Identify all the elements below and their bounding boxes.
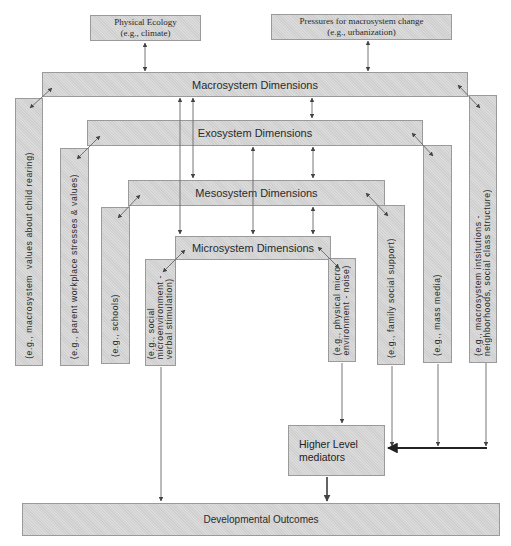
mesosystem-right-example: (e.g., family social support) <box>387 238 396 364</box>
exosystem-left-column: (e.g., parent workplace stresses & value… <box>60 148 89 366</box>
macrosystem-bar: Macrosystem Dimensions <box>42 72 468 97</box>
exosystem-left-example: (e.g., parent workplace stresses & value… <box>70 174 79 365</box>
microsystem-label: Microsystem Dimensions <box>192 242 314 254</box>
exosystem-label: Exosystem Dimensions <box>198 127 312 139</box>
microsystem-right-column: (e.g., physical micro- environment - noi… <box>328 258 356 362</box>
physical-ecology-title: Physical Ecology <box>114 17 177 28</box>
pressures-example: (e.g., urbanization) <box>327 27 395 38</box>
microsystem-left-example: (e.g., social microenvironment - verbal … <box>147 275 174 365</box>
exosystem-right-column: (e.g., mass media) <box>423 145 452 363</box>
exosystem-right-example: (e.g., mass media) <box>433 274 442 362</box>
macrosystem-right-example: (e.g., macrosystem intsitutions - neighb… <box>474 189 492 362</box>
physical-ecology-example: (e.g., climate) <box>121 28 171 39</box>
mesosystem-bar: Mesosystem Dimensions <box>128 180 385 206</box>
macrosystem-left-example: (e.g., macrosystem values about child re… <box>25 152 34 365</box>
pressures-title: Pressures for macrosystem change <box>299 16 423 27</box>
microsystem-bar: Microsystem Dimensions <box>175 236 331 260</box>
mesosystem-left-example: (e.g., schools) <box>111 294 120 363</box>
developmental-outcomes-label: Developmental Outcomes <box>203 514 318 525</box>
macrosystem-left-column: (e.g., macrosystem values about child re… <box>15 98 43 366</box>
developmental-outcomes-box: Developmental Outcomes <box>22 503 500 536</box>
macrosystem-label: Macrosystem Dimensions <box>192 79 318 91</box>
microsystem-right-example: (e.g., physical micro- environment - noi… <box>333 263 351 361</box>
macrosystem-right-column: (e.g., macrosystem intsitutions - neighb… <box>469 95 497 363</box>
mesosystem-left-column: (e.g., schools) <box>101 207 130 364</box>
mediators-line1: Higher Level <box>299 438 384 451</box>
mediators-line2: mediators <box>299 451 384 464</box>
microsystem-left-column: (e.g., social microenvironment - verbal … <box>145 259 176 366</box>
exosystem-bar: Exosystem Dimensions <box>87 120 423 146</box>
physical-ecology-box: Physical Ecology (e.g., climate) <box>90 15 201 41</box>
pressures-box: Pressures for macrosystem change (e.g., … <box>271 14 452 40</box>
mesosystem-right-column: (e.g., family social support) <box>377 205 405 365</box>
mesosystem-label: Mesosystem Dimensions <box>195 187 317 199</box>
higher-level-mediators-box: Higher Level mediators <box>288 425 385 476</box>
